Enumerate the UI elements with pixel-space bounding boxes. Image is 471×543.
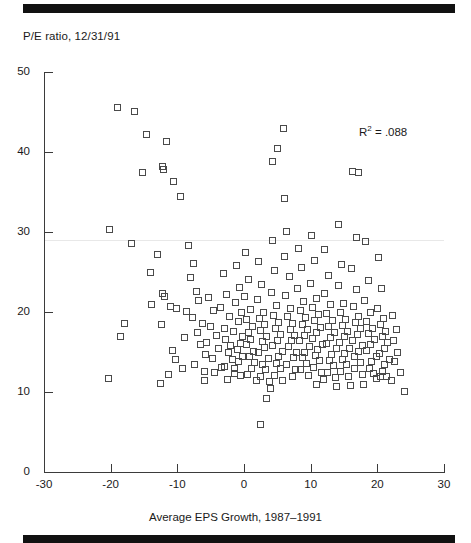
scatter-point bbox=[220, 270, 227, 277]
x-tick-30 bbox=[444, 464, 445, 472]
y-tick-label-30: 30 bbox=[17, 225, 30, 237]
scatter-point bbox=[271, 267, 278, 274]
x-tick-label-10: 10 bbox=[304, 478, 317, 490]
scatter-point bbox=[324, 369, 331, 376]
scatter-point bbox=[355, 169, 362, 176]
bottom-rule bbox=[23, 535, 455, 543]
scatter-point bbox=[224, 376, 231, 383]
scatter-point bbox=[269, 158, 276, 165]
scatter-point bbox=[401, 388, 408, 395]
scatter-point bbox=[353, 286, 360, 293]
scatter-point bbox=[169, 347, 176, 354]
x-tick-label-0: 0 bbox=[241, 478, 247, 490]
scatter-point bbox=[297, 307, 304, 314]
scatter-point bbox=[313, 295, 320, 302]
scatter-point bbox=[283, 361, 290, 368]
scatter-point bbox=[268, 289, 275, 296]
scatter-point bbox=[361, 297, 368, 304]
scatter-point bbox=[243, 341, 250, 348]
scatter-point bbox=[163, 138, 170, 145]
scatter-point bbox=[311, 257, 318, 264]
scatter-point bbox=[258, 281, 265, 288]
scatter-point bbox=[323, 340, 330, 347]
scatter-point bbox=[270, 312, 277, 319]
scatter-point bbox=[177, 193, 184, 200]
scatter-point bbox=[367, 309, 374, 316]
scatter-point bbox=[273, 302, 280, 309]
scatter-point bbox=[335, 282, 342, 289]
scatter-point bbox=[332, 374, 339, 381]
scatter-point bbox=[158, 321, 165, 328]
scatter-point bbox=[271, 372, 278, 379]
scatter-point bbox=[289, 373, 296, 380]
scatter-point bbox=[221, 363, 228, 370]
scatter-point bbox=[190, 260, 197, 267]
scatter-point bbox=[181, 334, 188, 341]
scatter-point bbox=[279, 377, 286, 384]
scatter-point bbox=[308, 232, 315, 239]
scatter-point bbox=[378, 285, 385, 292]
scatter-point bbox=[362, 238, 369, 245]
scatter-point bbox=[374, 305, 381, 312]
scatter-point bbox=[223, 291, 230, 298]
scatter-point bbox=[255, 349, 262, 356]
scatter-point bbox=[121, 320, 128, 327]
scatter-point bbox=[320, 376, 327, 383]
scatter-point bbox=[179, 365, 186, 372]
x-axis-title: Average EPS Growth, 1987–1991 bbox=[0, 511, 471, 523]
scatter-point bbox=[336, 339, 343, 346]
scatter-point bbox=[397, 369, 404, 376]
scatter-point bbox=[376, 350, 383, 357]
scatter-point bbox=[338, 261, 345, 268]
scatter-point bbox=[269, 342, 276, 349]
scatter-point bbox=[148, 301, 155, 308]
scatter-point bbox=[347, 382, 354, 389]
scatter-point bbox=[307, 280, 314, 287]
scatter-point bbox=[257, 421, 264, 428]
scatter-point bbox=[131, 108, 138, 115]
scatter-point bbox=[139, 169, 146, 176]
scatter-point bbox=[321, 290, 328, 297]
scatter-point bbox=[337, 368, 344, 375]
x-tick-10 bbox=[311, 464, 312, 472]
x-tick--30 bbox=[44, 464, 45, 472]
r-squared-exponent: 2 bbox=[367, 124, 371, 133]
x-tick-label-20: 20 bbox=[371, 478, 384, 490]
scatter-point bbox=[209, 355, 216, 362]
scatter-point bbox=[313, 381, 320, 388]
scatter-point bbox=[191, 361, 198, 368]
scatter-point bbox=[294, 285, 301, 292]
scatter-point bbox=[232, 299, 239, 306]
scatter-point bbox=[393, 326, 400, 333]
scatter-point bbox=[310, 364, 317, 371]
scatter-point bbox=[201, 368, 208, 375]
scatter-point bbox=[321, 246, 328, 253]
scatter-point bbox=[394, 349, 401, 356]
scatter-point bbox=[349, 337, 356, 344]
scatter-point bbox=[365, 277, 372, 284]
scatter-point bbox=[185, 242, 192, 249]
scatter-point bbox=[280, 125, 287, 132]
scatter-point bbox=[160, 166, 167, 173]
scatter-point bbox=[245, 276, 252, 283]
scatter-point bbox=[161, 293, 168, 300]
scatter-point bbox=[203, 339, 210, 346]
scatter-point bbox=[172, 356, 179, 363]
scatter-point bbox=[230, 328, 237, 335]
scatter-point bbox=[305, 372, 312, 379]
scatter-point bbox=[316, 357, 323, 364]
scatter-point bbox=[297, 366, 304, 373]
y-tick-label-10: 10 bbox=[17, 385, 30, 397]
x-tick-label--10: -10 bbox=[169, 478, 186, 490]
top-rule bbox=[23, 4, 455, 13]
scatter-point bbox=[363, 347, 370, 354]
scatter-point bbox=[215, 345, 222, 352]
scatter-point bbox=[157, 380, 164, 387]
scatter-point bbox=[265, 355, 272, 362]
scatter-point bbox=[266, 378, 273, 385]
scatter-point bbox=[207, 323, 214, 330]
scatter-point bbox=[295, 245, 302, 252]
scatter-point bbox=[325, 272, 332, 279]
x-tick-label-30: 30 bbox=[438, 478, 451, 490]
scatter-point bbox=[255, 258, 262, 265]
